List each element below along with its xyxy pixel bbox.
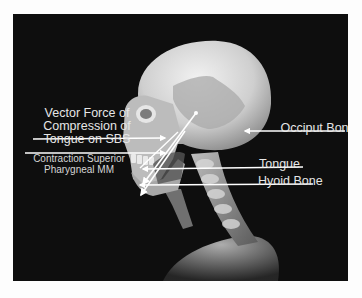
tongue-label: Tongue xyxy=(259,158,300,171)
hyoid-bone-label: Hyoid Bone xyxy=(258,175,323,188)
contraction-line-2: Pharygneal MM xyxy=(23,165,135,176)
shoulder-shape xyxy=(163,236,279,281)
diagram-panel: Vector Force of Compression of Tongue on… xyxy=(13,14,348,281)
occiput-bone-label: Occiput Bone xyxy=(278,122,348,135)
contraction-label: Contraction Superior Pharygneal MM xyxy=(23,154,135,175)
larynx-shape xyxy=(163,189,193,229)
vector-force-line-3: Tongue on SBS xyxy=(39,133,135,146)
contraction-line-1: Contraction Superior xyxy=(23,154,135,165)
vector-force-label: Vector Force of Compression of Tongue on… xyxy=(39,107,135,146)
skull-neck-illustration xyxy=(13,14,348,281)
